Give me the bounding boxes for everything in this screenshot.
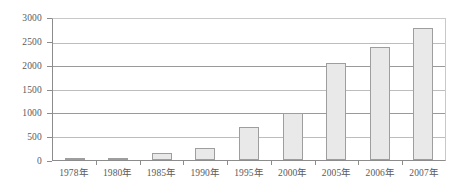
plot-area [52, 18, 446, 161]
bar-chart: 3000 2500 2000 1500 1000 500 0 [0, 0, 453, 196]
bar-1978 [65, 158, 85, 160]
y-tick-label-500: 500 [0, 132, 42, 142]
x-tick-label-1978: 1978年 [52, 167, 96, 179]
x-tick-label-2006: 2006年 [358, 167, 402, 179]
y-tick-label-2000: 2000 [0, 61, 42, 71]
y-tick-label-2500: 2500 [0, 37, 42, 47]
bar-2006 [370, 47, 390, 160]
bar-1980 [108, 158, 128, 160]
x-tick-label-1980: 1980年 [96, 167, 140, 179]
y-tick-label-3000: 3000 [0, 13, 42, 23]
y-tick-label-1500: 1500 [0, 85, 42, 95]
bars-layer [53, 19, 445, 160]
x-tick-mark-8 [402, 161, 403, 165]
x-tick-mark-7 [358, 161, 359, 165]
y-tick-mark-0 [47, 161, 52, 162]
x-tick-label-2007: 2007年 [402, 167, 446, 179]
x-axis-labels: 1978年 1980年 1985年 1990年 1995年 2000年 2005… [52, 167, 446, 187]
y-tick-label-0: 0 [0, 156, 42, 166]
bar-1985 [152, 153, 172, 160]
x-tick-label-2000: 2000年 [271, 167, 315, 179]
bar-2000 [283, 113, 303, 160]
bar-2005 [326, 63, 346, 160]
y-axis-labels: 3000 2500 2000 1500 1000 500 0 [0, 0, 42, 196]
x-tick-label-1985: 1985年 [140, 167, 184, 179]
bar-1990 [195, 148, 215, 160]
x-tick-label-1990: 1990年 [183, 167, 227, 179]
x-tick-mark-2 [140, 161, 141, 165]
x-tick-mark-5 [271, 161, 272, 165]
y-tick-label-1000: 1000 [0, 108, 42, 118]
x-tick-mark-3 [183, 161, 184, 165]
x-tick-label-1995: 1995年 [227, 167, 271, 179]
x-tick-mark-6 [315, 161, 316, 165]
x-tick-mark-1 [96, 161, 97, 165]
bar-2007 [413, 28, 433, 160]
x-tick-mark-4 [227, 161, 228, 165]
x-tick-label-2005: 2005年 [315, 167, 359, 179]
bar-1995 [239, 127, 259, 160]
